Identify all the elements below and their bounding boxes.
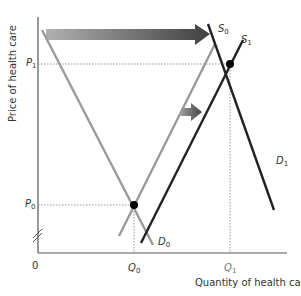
q1-label: Q1 xyxy=(224,263,236,275)
equilibrium-point-initial xyxy=(130,201,138,209)
diagram-canvas xyxy=(0,0,301,296)
demand-curve-d0 xyxy=(42,30,153,245)
s0-label: S0 xyxy=(218,24,229,36)
d1-label: D1 xyxy=(276,156,288,168)
equilibrium-point-new xyxy=(226,60,234,68)
axes xyxy=(33,17,287,253)
s1-label: S1 xyxy=(241,35,252,47)
p0-label: P0 xyxy=(25,199,36,211)
guide-lines xyxy=(38,64,230,253)
p1-label: P1 xyxy=(26,58,37,70)
demand-shift-arrow-icon xyxy=(46,24,210,45)
q0-label: Q0 xyxy=(128,263,140,275)
demand-curve-d1 xyxy=(208,24,274,210)
y-axis-title: Price of health care xyxy=(8,25,18,122)
origin-label: 0 xyxy=(32,261,38,271)
d0-label: D0 xyxy=(158,237,170,249)
supply-demand-diagram: Price of health care P1 P0 0 Q0 Q1 Quant… xyxy=(0,0,301,296)
supply-curve-s1 xyxy=(141,40,243,243)
x-axis-title: Quantity of health care xyxy=(195,278,301,288)
